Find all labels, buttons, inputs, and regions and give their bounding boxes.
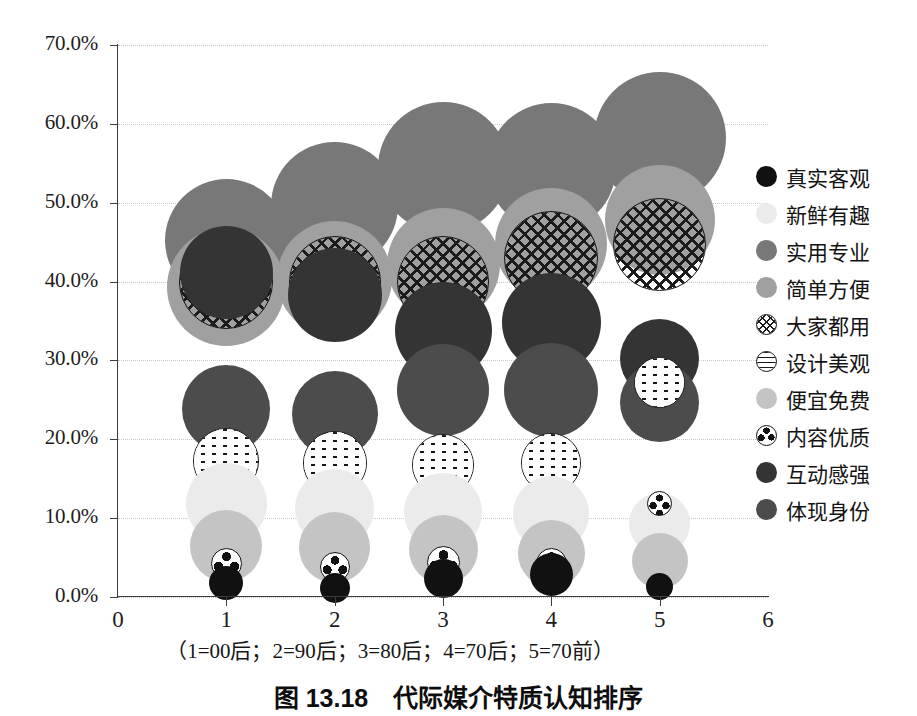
legend-item-label: 新鲜有趣 <box>786 199 870 229</box>
y-axis-line <box>117 44 118 598</box>
legend-item[interactable]: 便宜免费 <box>756 380 916 417</box>
y-tick-mark <box>110 124 118 125</box>
legend-marker-icon <box>756 203 777 224</box>
legend-item-label: 大家都用 <box>786 310 870 340</box>
bubble <box>180 226 273 319</box>
legend-item[interactable]: 体现身份 <box>756 491 916 528</box>
legend-item-label: 简单方便 <box>786 273 870 303</box>
y-tick-mark <box>110 439 118 440</box>
x-axis-label: 2 <box>320 607 350 633</box>
bubble <box>288 248 382 342</box>
legend-item-label: 内容优质 <box>786 421 870 451</box>
legend-marker-icon <box>756 499 777 520</box>
y-axis-label: 60.0% <box>12 110 98 135</box>
x-tick-mark <box>226 597 227 606</box>
y-axis-label: 30.0% <box>12 346 98 371</box>
legend-item-label: 体现身份 <box>786 495 870 525</box>
legend-marker-icon <box>756 462 777 483</box>
bubble-chart-figure: 0.0%10.0%20.0%30.0%40.0%50.0%60.0%70.0% … <box>0 0 917 716</box>
bubble <box>634 357 685 408</box>
x-axis-label: 0 <box>103 607 133 633</box>
x-axis-label: 6 <box>753 607 783 633</box>
y-tick-mark <box>110 203 118 204</box>
x-tick-mark <box>551 597 552 606</box>
legend-item-label: 设计美观 <box>786 347 870 377</box>
y-tick-mark <box>110 282 118 283</box>
y-tick-mark <box>110 360 118 361</box>
x-tick-mark <box>443 597 444 606</box>
bubble <box>209 566 243 600</box>
legend-marker-icon <box>756 351 777 372</box>
bubble <box>613 198 706 291</box>
legend-item[interactable]: 实用专业 <box>756 232 916 269</box>
legend-marker-icon <box>756 240 777 261</box>
legend: 真实客观新鲜有趣实用专业简单方便大家都用设计美观便宜免费内容优质互动感强体现身份 <box>756 158 916 528</box>
y-tick-mark <box>110 518 118 519</box>
legend-marker-icon <box>756 425 777 446</box>
y-axis-label: 0.0% <box>12 583 98 608</box>
y-axis-label: 20.0% <box>12 425 98 450</box>
legend-marker-icon <box>756 166 777 187</box>
legend-marker-icon <box>756 388 777 409</box>
x-axis-label: 3 <box>428 607 458 633</box>
legend-item[interactable]: 简单方便 <box>756 269 916 306</box>
legend-item-label: 真实客观 <box>786 162 870 192</box>
x-axis-label: 4 <box>536 607 566 633</box>
legend-marker-icon <box>756 314 777 335</box>
legend-item[interactable]: 互动感强 <box>756 454 916 491</box>
x-axis-label: 1 <box>211 607 241 633</box>
figure-title: 图 13.18 代际媒介特质认知排序 <box>0 678 917 714</box>
legend-item-label: 互动感强 <box>786 458 870 488</box>
x-tick-mark <box>660 597 661 606</box>
legend-item-label: 实用专业 <box>786 236 870 266</box>
plot-area <box>118 45 768 597</box>
legend-item[interactable]: 内容优质 <box>756 417 916 454</box>
bubble <box>424 559 463 598</box>
legend-item-label: 便宜免费 <box>786 384 870 414</box>
y-axis-label: 10.0% <box>12 504 98 529</box>
y-axis-label: 40.0% <box>12 268 98 293</box>
x-tick-mark <box>335 597 336 606</box>
legend-item[interactable]: 大家都用 <box>756 306 916 343</box>
legend-item[interactable]: 新鲜有趣 <box>756 195 916 232</box>
bubble <box>504 343 598 437</box>
y-axis-label: 50.0% <box>12 189 98 214</box>
bubble <box>397 344 489 436</box>
x-axis-caption: （1=00后；2=90后；3=80后；4=70后；5=70前） <box>0 634 780 664</box>
legend-item[interactable]: 真实客观 <box>756 158 916 195</box>
y-axis-label: 70.0% <box>12 31 98 56</box>
legend-marker-icon <box>756 277 777 298</box>
y-tick-mark <box>110 597 118 598</box>
legend-item[interactable]: 设计美观 <box>756 343 916 380</box>
x-axis-label: 5 <box>645 607 675 633</box>
bubble <box>530 553 573 596</box>
y-tick-mark <box>110 45 118 46</box>
